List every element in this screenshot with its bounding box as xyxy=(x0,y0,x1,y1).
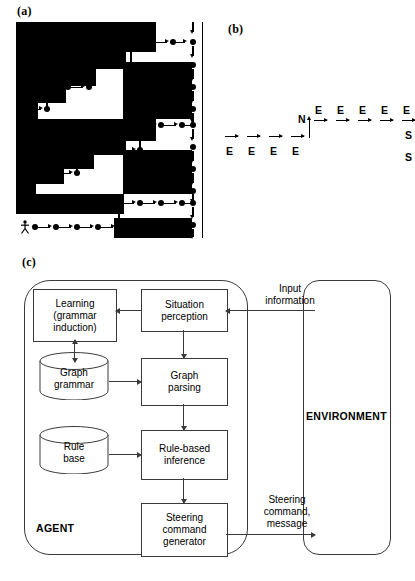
box-line: Situation xyxy=(161,299,208,311)
arrowhead-right-icon xyxy=(69,170,73,174)
arrowhead-right-icon xyxy=(39,106,43,110)
stick-figure-icon xyxy=(20,220,30,234)
path-node xyxy=(190,200,196,206)
seq-symbol-south: S xyxy=(405,151,412,163)
box-line: Learning xyxy=(53,298,96,310)
arrowhead-right-icon xyxy=(153,200,157,204)
agent-label: AGENT xyxy=(36,522,74,534)
store-line: Graph xyxy=(39,367,109,379)
label-steering-command: Steering command, message xyxy=(242,494,332,530)
box-line: perception xyxy=(161,311,208,323)
label-line: message xyxy=(242,518,332,530)
seq-arrow-right xyxy=(314,120,327,121)
arrowhead-right-icon xyxy=(165,39,169,43)
arrowhead-right-icon xyxy=(123,62,127,66)
panel-b-label: (b) xyxy=(228,22,243,37)
label-input-information: Input information xyxy=(245,283,335,307)
arrow-learning-to-grammar xyxy=(74,340,75,362)
seq-symbol: E xyxy=(248,145,255,157)
arrowhead-up-icon xyxy=(86,68,90,72)
path-arrow-up xyxy=(76,155,77,171)
seq-arrow-right xyxy=(402,120,415,121)
path-node xyxy=(190,222,196,228)
wall-block xyxy=(16,194,124,214)
arrowhead-right-icon xyxy=(48,224,52,228)
store-rule-base[interactable]: Rule base xyxy=(39,426,109,474)
box-line: induction) xyxy=(53,322,96,334)
box-rule-based-inference-text: Rule-based inference xyxy=(159,443,210,467)
arrow-grammar-to-parsing xyxy=(109,381,141,382)
arrow-inference-to-generator xyxy=(183,478,184,503)
arrowhead-up-icon xyxy=(116,206,120,210)
panel-a-label: (a) xyxy=(17,4,32,19)
label-line: command, xyxy=(242,506,332,518)
seq-arrow-right xyxy=(269,136,282,137)
label-line: information xyxy=(245,295,335,307)
wall-block xyxy=(16,22,156,52)
box-line: Graph xyxy=(168,370,201,382)
seq-arrow-right xyxy=(225,136,238,137)
path-node xyxy=(190,166,196,172)
path-arrow-up xyxy=(46,92,47,107)
path-node xyxy=(190,106,196,112)
maze-right-border xyxy=(202,22,203,238)
box-steering-command-generator[interactable]: Steering command generator xyxy=(141,503,228,557)
wall-block xyxy=(16,184,36,194)
path-node xyxy=(190,144,196,150)
path-node xyxy=(190,84,196,90)
wall-block xyxy=(16,86,66,103)
box-line: Steering xyxy=(163,512,207,524)
arrowhead-right-icon xyxy=(132,200,136,204)
seq-symbol-north: N xyxy=(298,113,306,125)
seq-arrow-up xyxy=(309,120,310,138)
seq-symbol: E xyxy=(315,104,322,116)
path-node xyxy=(190,62,196,68)
box-line: Rule-based xyxy=(159,443,210,455)
store-rule-base-text: Rule base xyxy=(39,441,109,465)
box-rule-based-inference[interactable]: Rule-based inference xyxy=(141,430,228,480)
box-line: inference xyxy=(159,455,210,467)
path-arrow-up xyxy=(130,47,131,63)
arrowhead-right-icon xyxy=(102,62,106,66)
box-graph-parsing[interactable]: Graph parsing xyxy=(141,358,228,406)
arrowhead-right-icon xyxy=(60,84,64,88)
box-situation-perception-text: Situation perception xyxy=(161,299,208,323)
arrowhead-down-icon xyxy=(190,77,194,81)
arrow-perception-to-learning xyxy=(116,310,141,311)
box-graph-parsing-text: Graph parsing xyxy=(168,370,201,394)
box-line: generator xyxy=(163,536,207,548)
environment-label: ENVIRONMENT xyxy=(306,410,387,422)
arrowhead-down-icon xyxy=(190,159,194,163)
arrowhead-right-icon xyxy=(144,39,148,43)
arrowhead-down-icon xyxy=(190,99,194,103)
seq-symbol: E xyxy=(381,104,388,116)
arrowhead-right-icon xyxy=(81,84,85,88)
arrow-perception-to-parsing xyxy=(183,330,184,358)
arrowhead-up-icon xyxy=(137,128,141,132)
arrowhead-down-icon xyxy=(190,215,194,219)
arrowhead-right-icon xyxy=(69,224,73,228)
panel-c-label: (c) xyxy=(22,255,36,270)
box-learning[interactable]: Learning (grammar induction) xyxy=(33,289,117,342)
arrow-rulebase-to-inference xyxy=(109,454,141,455)
wall-block xyxy=(16,119,156,141)
arrowhead-down-icon xyxy=(190,235,194,239)
path-node xyxy=(190,122,196,128)
arrow-parsing-to-inference xyxy=(183,404,184,430)
arrowhead-right-icon xyxy=(183,39,187,43)
arrowhead-right-icon xyxy=(111,147,115,151)
arrowhead-up-icon xyxy=(74,153,78,157)
box-line: parsing xyxy=(168,382,201,394)
seq-symbol-south: S xyxy=(405,129,412,141)
panel-a: (a) xyxy=(0,0,210,248)
arrowhead-right-icon xyxy=(132,147,136,151)
box-situation-perception[interactable]: Situation perception xyxy=(141,289,228,332)
seq-arrow-right xyxy=(358,120,371,121)
arrow-input-information xyxy=(226,310,315,311)
seq-symbol: E xyxy=(403,104,410,116)
seq-symbol: E xyxy=(359,104,366,116)
store-line: Rule xyxy=(39,441,109,453)
seq-arrow-right xyxy=(291,136,304,137)
panel-b: (b) E E E E N E E E E E S S E4NE5S2 xyxy=(210,0,415,248)
path-arrow-up xyxy=(139,130,140,148)
